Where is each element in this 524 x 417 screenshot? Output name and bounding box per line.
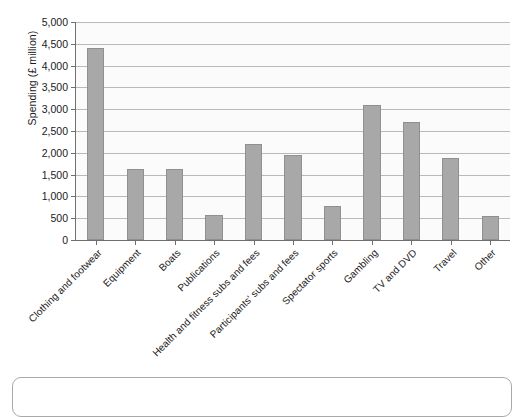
y-tick-label: 4,500 [42,38,68,50]
bar [482,216,499,240]
y-tick-label: 500 [50,212,68,224]
x-tick-label: Clothing and footwear [26,247,103,324]
bar [205,215,222,240]
x-tick-label: Travel [431,247,458,274]
x-tick-mark [175,240,176,245]
bar [284,155,301,240]
plot-area: 05001,0001,5002,0002,5003,0003,5004,0004… [75,22,510,241]
x-tick-mark [332,240,333,245]
bar [87,48,104,240]
bar [442,158,459,240]
x-tick-mark [254,240,255,245]
x-tick-label: Gambling [341,247,379,285]
caption-box [12,377,512,417]
x-tick-label: Boats [156,247,182,273]
bar [127,169,144,240]
bar [245,144,262,240]
y-tick-label: 0 [62,234,68,246]
x-tick-mark [451,240,452,245]
y-tick-label: 2,500 [42,125,68,137]
bar [166,169,183,240]
x-tick-mark [135,240,136,245]
y-tick-label: 2,000 [42,147,68,159]
y-tick-mark [71,240,76,241]
bar [403,122,420,240]
x-tick-mark [372,240,373,245]
y-tick-label: 5,000 [42,16,68,28]
bars-container [76,22,510,240]
y-tick-label: 4,000 [42,60,68,72]
bar [363,105,380,240]
x-tick-mark [490,240,491,245]
y-tick-label: 3,000 [42,103,68,115]
x-tick-mark [411,240,412,245]
x-tick-label: Equipment [101,247,143,289]
x-tick-mark [293,240,294,245]
y-tick-label: 1,000 [42,190,68,202]
y-tick-label: 1,500 [42,169,68,181]
y-axis-title: Spending (£ million) [26,0,38,158]
x-tick-mark [96,240,97,245]
y-tick-label: 3,500 [42,81,68,93]
x-tick-mark [214,240,215,245]
x-tick-label: Other [472,247,498,273]
bar [324,206,341,240]
